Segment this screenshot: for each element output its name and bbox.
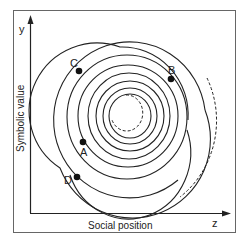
y-axis-letter: y xyxy=(19,23,25,35)
x-axis-label: Social position xyxy=(88,220,152,231)
inner-dashed-arc xyxy=(112,95,143,131)
point-a xyxy=(80,139,87,146)
y-axis-label: Symbolic value xyxy=(15,84,26,152)
spiral xyxy=(29,42,210,219)
frame xyxy=(14,11,236,233)
point-d xyxy=(74,174,81,181)
point-label-d: D xyxy=(64,174,72,186)
point-label-c: C xyxy=(70,57,78,69)
y-axis-arrow-icon xyxy=(28,15,34,24)
x-axis-arrow-icon xyxy=(222,211,231,217)
point-b xyxy=(168,76,175,83)
x-axis-letter: z xyxy=(212,217,218,229)
spiral-diagram: C B A D y z Social position Symbolic val… xyxy=(0,0,247,245)
point-label-b: B xyxy=(168,64,175,76)
point-label-a: A xyxy=(80,146,88,158)
